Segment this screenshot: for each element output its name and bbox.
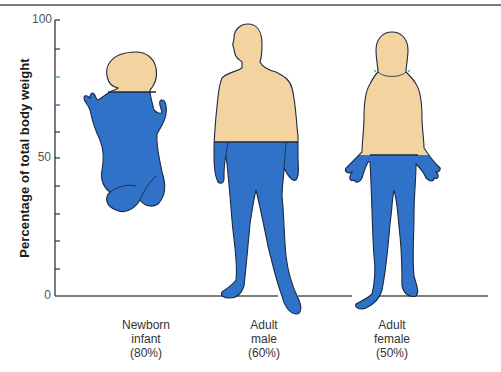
y-tick-50: 50	[21, 150, 51, 164]
adult-female-figure	[345, 32, 440, 309]
caption-percent: (50%)	[347, 346, 437, 360]
caption-adult-female: Adult female (50%)	[347, 318, 437, 360]
caption-line1: Newborn	[101, 318, 191, 332]
caption-line2: female	[347, 332, 437, 346]
caption-newborn-infant: Newborn infant (80%)	[101, 318, 191, 360]
caption-line2: infant	[101, 332, 191, 346]
caption-percent: (60%)	[219, 346, 309, 360]
adult-male-figure	[214, 24, 301, 314]
caption-line1: Adult	[219, 318, 309, 332]
y-tick-100: 100	[22, 12, 52, 26]
y-axis	[55, 20, 60, 296]
newborn-infant-figure	[84, 52, 166, 212]
caption-adult-male: Adult male (60%)	[219, 318, 309, 360]
caption-percent: (80%)	[101, 346, 191, 360]
y-tick-0: 0	[21, 288, 51, 302]
caption-line1: Adult	[347, 318, 437, 332]
body-water-diagram	[0, 0, 501, 372]
caption-line2: male	[219, 332, 309, 346]
